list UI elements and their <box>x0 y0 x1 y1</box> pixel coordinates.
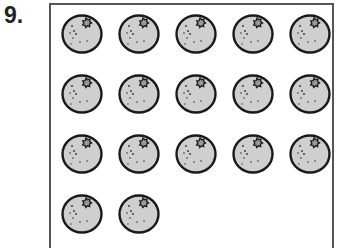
orange-icon <box>117 191 161 235</box>
orange-icon <box>117 131 161 175</box>
orange-icon <box>60 191 104 235</box>
orange-icon <box>174 11 218 55</box>
orange-icon <box>231 11 275 55</box>
orange-icon <box>231 131 275 175</box>
orange-icon <box>231 71 275 115</box>
question-number: 9. <box>4 2 23 29</box>
orange-icon <box>60 11 104 55</box>
orange-icon <box>174 131 218 175</box>
orange-icon <box>117 71 161 115</box>
orange-icon <box>288 11 332 55</box>
orange-icon <box>174 71 218 115</box>
orange-icon <box>117 11 161 55</box>
orange-icon <box>288 131 332 175</box>
orange-icon <box>288 71 332 115</box>
orange-icon <box>60 71 104 115</box>
orange-icon <box>60 131 104 175</box>
